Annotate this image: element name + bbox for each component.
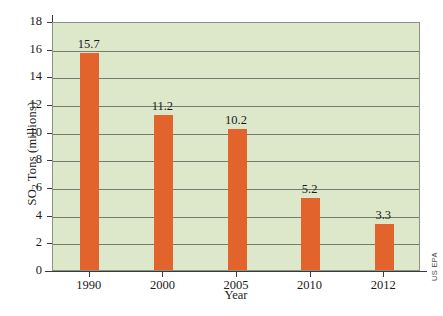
x-tick-mark <box>162 272 163 277</box>
y-tick-mark <box>47 188 52 189</box>
y-tick-mark <box>47 50 52 51</box>
y-tick-label: 14 <box>12 69 42 84</box>
x-tick-mark <box>89 272 90 277</box>
bar <box>154 115 173 270</box>
y-tick-mark <box>47 22 52 23</box>
x-tick-label: 1990 <box>59 278 119 293</box>
y-tick-mark <box>47 216 52 217</box>
y-tick-label: 16 <box>12 42 42 57</box>
x-tick-mark <box>236 272 237 277</box>
y-tick-label: 8 <box>12 152 42 167</box>
x-tick-label: 2012 <box>353 278 413 293</box>
plot-area <box>52 22 420 271</box>
bar-value-label: 5.2 <box>285 182 335 197</box>
bar-value-label: 3.3 <box>358 208 408 223</box>
x-axis-title: Year <box>136 288 336 303</box>
bar-layer <box>53 23 419 270</box>
bar-value-label: 15.7 <box>64 37 114 52</box>
y-tick-mark <box>47 105 52 106</box>
bar <box>228 129 247 270</box>
bar-value-label: 10.2 <box>211 113 261 128</box>
y-tick-label: 2 <box>12 235 42 250</box>
bar <box>301 198 320 270</box>
y-tick-label: 10 <box>12 125 42 140</box>
source-credit: US EPA <box>430 242 439 292</box>
y-tick-label: 12 <box>12 97 42 112</box>
bar-value-label: 11.2 <box>137 99 187 114</box>
y-tick-label: 6 <box>12 180 42 195</box>
y-tick-mark <box>47 77 52 78</box>
x-tick-mark <box>310 272 311 277</box>
y-tick-mark <box>47 160 52 161</box>
bar <box>375 224 394 270</box>
y-tick-mark <box>47 133 52 134</box>
chart-figure: SO2 Tons (millions) 024681012141618 1990… <box>0 0 443 316</box>
y-tick-mark <box>47 243 52 244</box>
y-axis-title-suffix: Tons (millions) <box>25 102 39 185</box>
y-tick-mark <box>47 271 52 272</box>
y-tick-label: 4 <box>12 208 42 223</box>
y-tick-label: 18 <box>12 14 42 29</box>
bar <box>80 53 99 270</box>
y-tick-label: 0 <box>12 263 42 278</box>
x-tick-mark <box>383 272 384 277</box>
